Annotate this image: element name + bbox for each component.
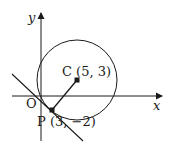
point-p-marker (50, 108, 55, 113)
tangent-line (12, 74, 83, 141)
x-axis-label: x (153, 98, 161, 113)
circle-tangent-diagram: y x O C (5, 3) P (3, −2) (0, 0, 173, 154)
y-axis-label: y (27, 10, 36, 25)
point-c-label: C (5, 3) (62, 64, 111, 79)
point-p-label: P (3, −2) (37, 114, 96, 129)
origin-label: O (26, 96, 37, 111)
radius-segment-cp (52, 80, 77, 110)
